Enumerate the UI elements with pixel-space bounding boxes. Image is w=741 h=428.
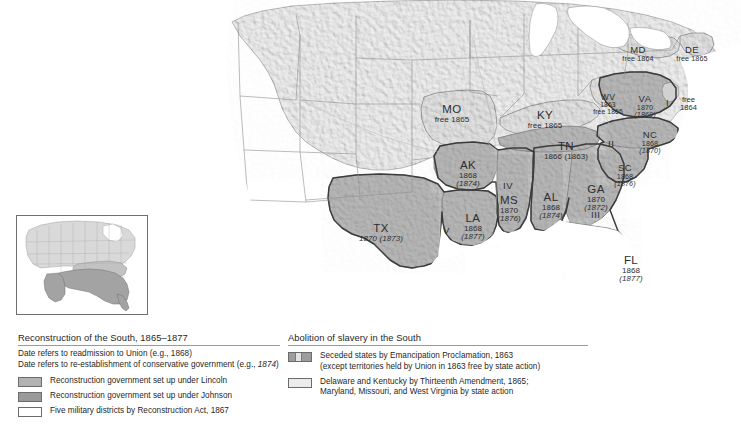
legend-label-thirteenth: Delaware and Kentucky by Thirteenth Amen… [320, 377, 528, 399]
legend-label-thirteenth-line1: Delaware and Kentucky by Thirteenth Amen… [320, 377, 528, 386]
legend-note-conservative-prefix: Date refers to re-establishment of conse… [18, 360, 258, 369]
legend-label-lincoln: Reconstruction government set up under L… [50, 376, 227, 387]
legend-reconstruction-title: Reconstruction of the South, 1865–1877 [18, 332, 280, 346]
legend-label-seceded-line1: Seceded states by Emancipation Proclamat… [320, 351, 513, 360]
legend-item-thirteenth: Delaware and Kentucky by Thirteenth Amen… [288, 377, 588, 399]
legend-swatch-districts [18, 407, 42, 417]
inset-map-graphic [17, 216, 147, 314]
legend-abolition-title: Abolition of slavery in the South [288, 332, 588, 346]
legend-item-lincoln: Reconstruction government set up under L… [18, 376, 280, 387]
legend-label-johnson: Reconstruction government set up under J… [50, 391, 232, 402]
legend-reconstruction-items: Reconstruction government set up under L… [18, 376, 280, 417]
legend-label-thirteenth-line2: Maryland, Missouri, and West Virginia by… [320, 387, 513, 396]
legend-note-readmission: Date refers to readmission to Union (e.g… [18, 349, 280, 360]
inset-locator-map [16, 215, 148, 315]
map-page: MO free 1865 KY free 1865 TN 1866 (1863)… [0, 0, 741, 428]
legend-note-conservative-suffix: ) [276, 360, 279, 369]
legend-label-seceded-line2: (except territories held by Union in 186… [320, 362, 540, 371]
legend-abolition-items: Seceded states by Emancipation Proclamat… [288, 351, 588, 398]
legend-note-conservative: Date refers to re-establishment of conse… [18, 360, 280, 371]
state-missouri [421, 90, 497, 148]
legend-note-conservative-year: 1874 [258, 360, 276, 369]
legend-swatch-seceded [288, 352, 312, 362]
legend-item-johnson: Reconstruction government set up under J… [18, 391, 280, 402]
legend-swatch-johnson [18, 392, 42, 402]
legend-label-districts: Five military districts by Reconstructio… [50, 406, 229, 417]
legend-swatch-thirteenth [288, 378, 312, 388]
legend-item-districts: Five military districts by Reconstructio… [18, 406, 280, 417]
legend-reconstruction-notes: Date refers to readmission to Union (e.g… [18, 349, 280, 371]
legend-swatch-lincoln [18, 377, 42, 387]
legend-reconstruction: Reconstruction of the South, 1865–1877 D… [18, 332, 280, 421]
legend-item-seceded: Seceded states by Emancipation Proclamat… [288, 351, 588, 373]
legend-abolition: Abolition of slavery in the South Secede… [288, 332, 588, 402]
legend-label-seceded: Seceded states by Emancipation Proclamat… [320, 351, 540, 373]
